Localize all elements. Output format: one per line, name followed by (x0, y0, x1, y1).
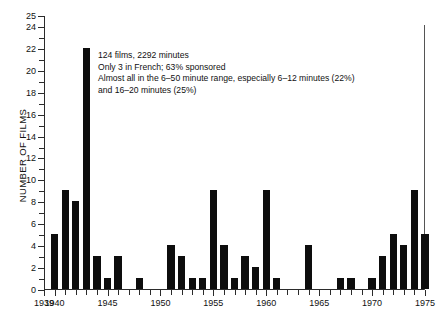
x-axis-tick (351, 290, 352, 295)
bar (104, 278, 111, 289)
x-axis-tick (277, 290, 278, 295)
y-axis-tick-label: 0 (31, 285, 36, 295)
y-axis-tick (38, 158, 44, 159)
y-axis-tick (38, 202, 44, 203)
bar (114, 256, 121, 289)
x-axis-tick-label: 1945 (97, 298, 117, 308)
y-axis-tick (38, 16, 44, 17)
bar (83, 48, 90, 289)
x-axis-tick (160, 290, 161, 296)
bar (400, 245, 407, 289)
x-axis-tick (192, 290, 193, 295)
x-axis-tick (266, 290, 267, 296)
y-axis-tick (39, 126, 44, 127)
annotation-line: Only 3 in French; 63% sponsored (98, 62, 355, 74)
figure-bar-chart-number-of-films: NUMBER OF FILMS 02468101214161820222425 … (0, 0, 439, 324)
bar (199, 278, 206, 289)
x-axis-tick (362, 290, 363, 295)
y-axis-tick (39, 257, 44, 258)
x-axis-tick-label: 1940 (45, 298, 65, 308)
bar (263, 190, 270, 289)
x-axis-tick (287, 290, 288, 295)
bar (390, 234, 397, 289)
x-axis-tick (298, 290, 299, 295)
bar (220, 245, 227, 289)
x-axis-tick (404, 290, 405, 295)
bar (210, 190, 217, 289)
x-axis-tick-label: 1950 (150, 298, 170, 308)
y-axis-tick (38, 268, 44, 269)
x-axis-tick (118, 290, 119, 295)
x-axis-tick (235, 290, 236, 295)
annotation-line: and 16–20 minutes (25%) (98, 85, 355, 97)
y-axis-tick (39, 235, 44, 236)
y-axis-tick (39, 148, 44, 149)
y-axis-tick-label: 25 (26, 11, 36, 21)
x-axis-tick (213, 290, 214, 296)
y-axis-line (44, 16, 45, 290)
bar (62, 190, 69, 289)
bar (241, 256, 248, 289)
x-axis-tick (171, 290, 172, 295)
x-axis-tick (414, 290, 415, 295)
y-axis-tick-label: 10 (26, 175, 36, 185)
bar (93, 256, 100, 289)
x-axis-tick (65, 290, 66, 295)
bar (421, 234, 428, 289)
bar (72, 201, 79, 289)
x-axis-tick-label: 1955 (203, 298, 223, 308)
bar (368, 278, 375, 289)
x-axis-tick (245, 290, 246, 295)
x-axis-tick (330, 290, 331, 295)
bar (252, 267, 259, 289)
y-axis-tick (38, 115, 44, 116)
x-axis-tick (139, 290, 140, 295)
annotation-line: Almost all in the 6–50 minute range, esp… (98, 73, 355, 85)
x-axis-tick (340, 290, 341, 295)
bar (167, 245, 174, 289)
y-axis-tick (38, 93, 44, 94)
y-axis-tick-label: 2 (31, 263, 36, 273)
x-axis-tick-label: 1975 (415, 298, 435, 308)
y-axis-tick (38, 224, 44, 225)
y-axis-tick-label: 12 (26, 153, 36, 163)
y-axis-tick (38, 71, 44, 72)
bar (231, 278, 238, 289)
bar (305, 245, 312, 289)
y-axis-tick (39, 60, 44, 61)
x-axis-tick (256, 290, 257, 295)
x-axis-tick (108, 290, 109, 296)
x-axis-tick-label: 1960 (256, 298, 276, 308)
y-axis-tick (39, 213, 44, 214)
bar (136, 278, 143, 289)
y-axis-tick (39, 104, 44, 105)
x-axis-tick (55, 290, 56, 296)
y-axis-tick-label: 16 (26, 110, 36, 120)
y-axis-tick-label: 22 (26, 44, 36, 54)
y-axis-tick-label: 6 (31, 219, 36, 229)
x-axis-tick (203, 290, 204, 295)
y-axis-tick-label: 24 (26, 22, 36, 32)
y-axis-tick (38, 246, 44, 247)
y-axis-tick-label: 14 (26, 132, 36, 142)
x-axis-tick (44, 290, 45, 296)
x-axis-tick (182, 290, 183, 295)
x-axis-tick (224, 290, 225, 295)
y-axis-tick (38, 27, 44, 28)
y-axis-tick (39, 82, 44, 83)
y-axis-tick (39, 38, 44, 39)
bar (273, 278, 280, 289)
y-axis-tick (38, 49, 44, 50)
x-axis-tick (97, 290, 98, 295)
x-axis-tick-label: 1970 (362, 298, 382, 308)
bar (189, 278, 196, 289)
y-axis-tick (39, 169, 44, 170)
y-axis-tick (38, 137, 44, 138)
y-axis-tick (39, 191, 44, 192)
y-axis-tick-label: 18 (26, 88, 36, 98)
bar (379, 256, 386, 289)
bar (178, 256, 185, 289)
y-axis-tick-label: 20 (26, 66, 36, 76)
x-axis-tick (150, 290, 151, 295)
x-axis-tick (86, 290, 87, 295)
